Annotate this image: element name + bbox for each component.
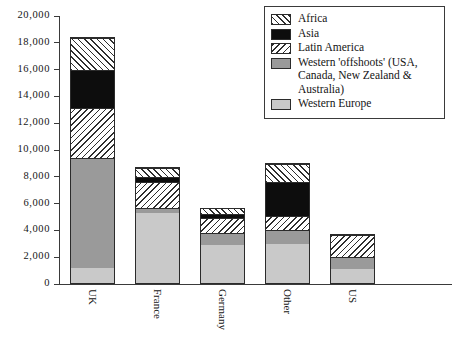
segment-uk-western-europe: [70, 268, 115, 284]
y-tick-label: 14,000: [0, 89, 50, 100]
y-tick-label: 0: [0, 277, 50, 288]
segment-germany-latin-america: [200, 218, 245, 233]
segment-other-asia: [265, 182, 310, 216]
legend-item-africa[interactable]: Africa: [271, 12, 438, 26]
segment-germany-western-offshoots: [200, 233, 245, 245]
segment-france-latin-america: [135, 182, 180, 207]
category-label-uk: UK: [87, 289, 99, 305]
bar-top-outline: [330, 234, 375, 235]
y-tick-label: 12,000: [0, 116, 50, 127]
y-tick-mark: [54, 257, 59, 258]
legend-label: Latin America: [298, 41, 364, 55]
chart-legend: AfricaAsiaLatin AmericaWestern 'offshoot…: [264, 6, 445, 119]
segment-france-western-europe: [135, 213, 180, 284]
y-tick-mark: [54, 16, 59, 17]
category-label-france: France: [152, 289, 164, 319]
segment-france-asia: [135, 177, 180, 182]
segment-other-western-offshoots: [265, 230, 310, 243]
y-tick-label: 10,000: [0, 143, 50, 154]
legend-swatch-latin-america: [271, 43, 291, 54]
segment-uk-africa: [70, 37, 115, 69]
segment-other-latin-america: [265, 216, 310, 231]
legend-label: Western 'offshoots' (USA, Canada, New Ze…: [298, 56, 438, 97]
legend-swatch-western-europe: [271, 99, 291, 110]
y-tick-mark: [54, 42, 59, 43]
y-tick-label: 18,000: [0, 36, 50, 47]
bar-uk: [70, 0, 115, 284]
legend-item-latin-america[interactable]: Latin America: [271, 41, 438, 55]
y-tick-label: 20,000: [0, 9, 50, 20]
segment-us-western-europe: [330, 269, 375, 284]
y-tick-mark: [54, 150, 59, 151]
segment-uk-asia: [70, 70, 115, 109]
legend-swatch-asia: [271, 29, 291, 40]
segment-other-western-europe: [265, 244, 310, 284]
segment-france-western-offshoots: [135, 208, 180, 213]
stacked-bar-chart: 20,00018,00016,00014,00012,00010,0008,00…: [0, 0, 452, 339]
x-axis-line: [59, 284, 452, 285]
category-label-germany: Germany: [217, 289, 229, 330]
segment-germany-asia: [200, 214, 245, 218]
segment-germany-western-europe: [200, 245, 245, 284]
y-tick-label: 8,000: [0, 170, 50, 181]
y-tick-label: 16,000: [0, 63, 50, 74]
y-tick-mark: [54, 230, 59, 231]
legend-swatch-africa: [271, 14, 291, 25]
y-tick-mark: [54, 123, 59, 124]
category-label-us: US: [347, 289, 359, 303]
legend-item-western-offshoots[interactable]: Western 'offshoots' (USA, Canada, New Ze…: [271, 56, 438, 97]
y-tick-label: 2,000: [0, 250, 50, 261]
bar-top-outline: [265, 163, 310, 164]
y-axis-line: [59, 16, 60, 285]
y-tick-mark: [54, 284, 59, 285]
y-tick-mark: [54, 203, 59, 204]
y-tick-label: 6,000: [0, 197, 50, 208]
y-tick-mark: [54, 96, 59, 97]
segment-us-latin-america: [330, 234, 375, 257]
legend-label: Africa: [298, 12, 327, 26]
legend-item-asia[interactable]: Asia: [271, 27, 438, 41]
legend-item-western-europe[interactable]: Western Europe: [271, 97, 438, 111]
segment-uk-western-offshoots: [70, 158, 115, 268]
bar-top-outline: [70, 37, 115, 38]
category-label-other: Other: [282, 289, 294, 314]
bar-france: [135, 0, 180, 284]
bar-top-outline: [200, 208, 245, 209]
segment-uk-latin-america: [70, 108, 115, 158]
y-tick-label: 4,000: [0, 223, 50, 234]
segment-us-western-offshoots: [330, 257, 375, 269]
segment-france-africa: [135, 167, 180, 176]
bar-germany: [200, 0, 245, 284]
legend-swatch-western-offshoots: [271, 58, 291, 69]
legend-label: Western Europe: [298, 97, 371, 111]
y-tick-mark: [54, 176, 59, 177]
bar-top-outline: [135, 167, 180, 168]
segment-other-africa: [265, 163, 310, 182]
legend-label: Asia: [298, 27, 319, 41]
y-tick-mark: [54, 69, 59, 70]
